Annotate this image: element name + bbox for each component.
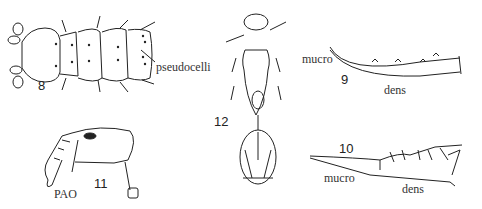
fig8-label-pseudocelli: pseudocelli — [156, 60, 211, 75]
fig11-number: 11 — [94, 176, 108, 191]
fig9-label-dens: dens — [384, 83, 406, 98]
fig10-number: 10 — [339, 141, 353, 156]
fig8-drawing — [8, 16, 155, 92]
fig8-number: 8 — [38, 78, 45, 93]
fig10-label-dens: dens — [402, 182, 424, 197]
fig12-number: 12 — [214, 114, 228, 129]
fig11-label-pao: PAO — [54, 187, 77, 202]
fig9-label-mucro: mucro — [302, 52, 333, 67]
fig9-drawing — [330, 47, 461, 76]
fig9-number: 9 — [341, 72, 348, 87]
fig10-label-mucro: mucro — [324, 171, 355, 186]
fig12-drawing — [226, 14, 286, 184]
figure-drawings — [0, 0, 482, 209]
